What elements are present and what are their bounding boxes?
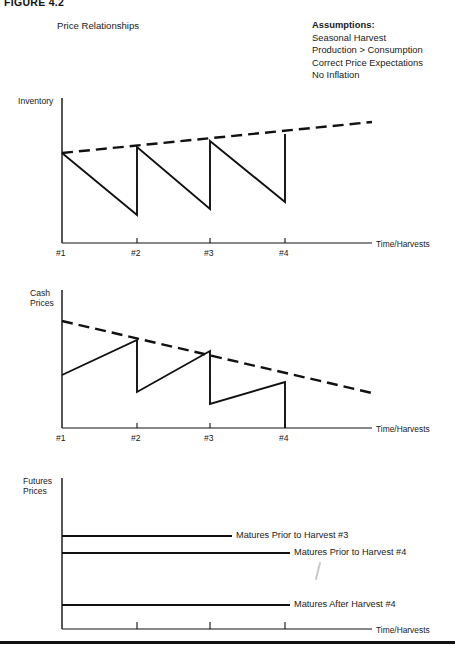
cash-y-axis-label-line2: Prices (30, 298, 54, 308)
futures-series-label-matures-after-harvest-4: Matures After Harvest #4 (294, 599, 396, 609)
assumptions-heading: Assumptions: (312, 19, 423, 32)
inventory-tick-label: #1 (56, 248, 66, 258)
cash-tick-label: #2 (131, 433, 141, 443)
cash-tick-label: #4 (279, 433, 289, 443)
cash-x-axis-label: Time/Harvests (376, 424, 430, 434)
cash-tick-label: #1 (56, 433, 66, 443)
cash-y-axis-label-line1: Cash (30, 288, 54, 298)
futures-series-label-matures-prior-harvest-3: Matures Prior to Harvest #3 (236, 530, 348, 540)
inventory-tick-label: #3 (204, 248, 214, 258)
assumption-item: Seasonal Harvest (312, 32, 423, 45)
figure-page: FIGURE 4.2 Price Relationships Assumptio… (0, 0, 455, 649)
cash-y-axis-label: Cash Prices (30, 288, 54, 308)
scan-artifact-mark (315, 562, 321, 580)
assumption-item: No Inflation (312, 69, 423, 82)
futures-y-axis-label-line2: Prices (23, 486, 52, 496)
cash-tick-label: #3 (204, 433, 214, 443)
inventory-tick-label: #2 (131, 248, 141, 258)
inventory-trend-dashed (62, 122, 372, 153)
figure-number-label: FIGURE 4.2 (4, 0, 64, 8)
inventory-tick-label: #4 (279, 248, 289, 258)
inventory-x-axis-label: Time/Harvests (376, 239, 430, 249)
assumption-item: Correct Price Expectations (312, 57, 423, 70)
cash-trend-dashed (62, 321, 372, 393)
futures-y-axis-label-line1: Futures (23, 476, 52, 486)
cash-series-line (62, 340, 285, 428)
futures-series-label-matures-prior-harvest-4: Matures Prior to Harvest #4 (294, 547, 406, 557)
figure-title: Price Relationships (57, 20, 139, 31)
inventory-y-axis-label: Inventory (18, 96, 53, 106)
assumptions-block: Assumptions: Seasonal Harvest Production… (312, 19, 423, 82)
assumption-item: Production > Consumption (312, 44, 423, 57)
futures-y-axis-label: Futures Prices (23, 476, 52, 496)
bottom-rule-divider (0, 641, 455, 644)
inventory-series-line (62, 134, 285, 215)
futures-x-axis-label: Time/Harvests (376, 625, 430, 635)
